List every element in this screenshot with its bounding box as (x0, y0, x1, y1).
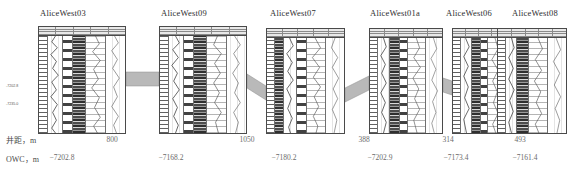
correlation-band-upper (126, 72, 159, 86)
log-track-lithology (472, 38, 481, 133)
log-track-depth-scale (267, 38, 275, 133)
log-track-lithology (517, 38, 529, 133)
header-cell (39, 27, 56, 35)
header-cell (195, 27, 212, 35)
log-track-gamma (48, 36, 63, 133)
header-cell (56, 27, 73, 35)
owc-value-3: −7202.9 (361, 153, 399, 162)
well-title-4: AliceWest06 (440, 8, 498, 18)
log-track-resistivity (529, 38, 548, 133)
owc-value-4: −7173.4 (437, 153, 475, 162)
header-cell (267, 29, 283, 37)
log-track-gamma (506, 38, 517, 133)
owc-value-0: −7202.8 (43, 153, 81, 162)
log-track-resistivity (207, 36, 227, 133)
header-cell (512, 29, 526, 37)
log-track-depth-scale (370, 38, 378, 133)
row-label-well-spacing: 井距，m (6, 134, 36, 145)
header-cell (526, 29, 540, 37)
well-spacing-value-4: 493 (504, 135, 536, 144)
log-track-depth-scale (39, 36, 48, 133)
header-cell (109, 27, 125, 35)
log-track-depth-scale (453, 38, 461, 133)
log-track-lithology (275, 38, 284, 133)
correlation-band-upper (443, 78, 452, 95)
well-log-panel-1[interactable] (159, 26, 247, 134)
well-log-panel-0[interactable] (38, 26, 126, 134)
header-cell (298, 29, 314, 37)
panel-header (160, 27, 246, 36)
log-track-porosity (227, 36, 246, 133)
log-track-depth-scale (160, 36, 169, 133)
log-track-resistivity (86, 36, 106, 133)
header-cell (177, 27, 194, 35)
well-log-panel-3[interactable] (369, 28, 443, 134)
log-track-porosity (548, 38, 566, 133)
log-track-resistivity (408, 38, 426, 133)
well-title-0: AliceWest03 (34, 8, 92, 18)
header-cell (314, 29, 330, 37)
header-cell (91, 27, 108, 35)
panel-header (370, 29, 442, 38)
log-track-sand (184, 36, 194, 133)
cross-section-figure: AliceWest03 AliceWest09 AliceWest07 Alic… (0, 0, 569, 174)
header-cell (414, 29, 429, 37)
panel-body (39, 36, 125, 133)
log-track-sand (297, 38, 307, 133)
panel-header (498, 29, 566, 38)
panel-header (39, 27, 125, 36)
owc-value-1: −7168.2 (152, 153, 190, 162)
panel-body (267, 38, 344, 133)
header-cell (74, 27, 91, 35)
header-cell (479, 29, 492, 37)
well-log-panel-2[interactable] (266, 28, 345, 134)
panel-body (370, 38, 442, 133)
owc-value-5: −7161.4 (506, 153, 544, 162)
log-track-resistivity (307, 38, 326, 133)
log-track-gamma (378, 38, 390, 133)
well-spacing-value-2: 388 (348, 135, 380, 144)
header-cell (498, 29, 512, 37)
log-track-gamma (461, 38, 472, 133)
well-title-2: AliceWest07 (264, 8, 322, 18)
well-log-panel-5[interactable] (497, 28, 567, 134)
depth-tag: -7235.0 (6, 102, 18, 106)
log-track-sand (481, 38, 488, 133)
header-cell (466, 29, 479, 37)
header-cell (283, 29, 299, 37)
well-spacing-value-0: 800 (96, 135, 128, 144)
panel-header (267, 29, 344, 38)
header-cell (539, 29, 553, 37)
panel-body (160, 36, 246, 133)
log-track-porosity (106, 36, 125, 133)
header-cell (385, 29, 400, 37)
header-cell (399, 29, 414, 37)
header-cell (212, 27, 229, 35)
header-cell (428, 29, 442, 37)
row-label-owc: OWC，m (6, 153, 39, 164)
well-title-3: AliceWest01a (365, 8, 425, 18)
header-cell (329, 29, 344, 37)
correlation-band-upper (247, 74, 266, 100)
log-track-gamma (169, 36, 184, 133)
log-track-sand (63, 36, 73, 133)
header-cell (453, 29, 466, 37)
log-track-depth-scale (498, 38, 506, 133)
log-track-porosity (326, 38, 344, 133)
log-track-gamma (284, 38, 297, 133)
header-cell (553, 29, 566, 37)
well-spacing-value-3: 314 (432, 135, 464, 144)
log-track-lithology (194, 36, 207, 133)
correlation-band-upper (345, 76, 369, 102)
depth-tag: -7202.8 (6, 84, 18, 88)
log-track-lithology (73, 36, 86, 133)
well-title-5: AliceWest08 (506, 8, 564, 18)
log-track-sand (400, 38, 408, 133)
header-cell (160, 27, 177, 35)
well-spacing-value-1: 1050 (231, 135, 263, 144)
owc-value-2: −7180.2 (265, 153, 303, 162)
header-cell (230, 27, 246, 35)
log-track-porosity (426, 38, 443, 133)
header-cell (370, 29, 385, 37)
panel-body (498, 38, 566, 133)
